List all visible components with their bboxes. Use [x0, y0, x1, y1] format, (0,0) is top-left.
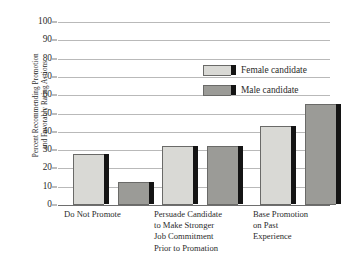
bar-shadow-face	[238, 146, 243, 204]
bar-female-group-2	[162, 146, 193, 205]
x-category-label-3-line-2: on Past	[253, 220, 308, 231]
y-tick-label-50: 50	[12, 109, 52, 118]
bar-chart-figure: Percent Recommending Promotion and Favor…	[0, 0, 346, 267]
chart-legend: Female candidate Male candidate	[203, 62, 346, 102]
bar-male-group-1	[118, 182, 149, 205]
y-tick-label-80: 80	[12, 54, 52, 63]
bar-shadow-face	[336, 104, 341, 204]
x-category-label-2-line-2: to Make Stronger	[154, 220, 222, 231]
bar-shadow-face	[104, 154, 109, 204]
bar-female-group-1	[73, 154, 104, 205]
y-tick-label-20: 20	[12, 164, 52, 173]
gridline-90	[58, 40, 330, 41]
y-tick-label-70: 70	[12, 72, 52, 81]
y-tick-label-10: 10	[12, 182, 52, 191]
x-category-label-2-line-3: Job Commitment	[154, 231, 222, 242]
bar-shadow-face	[291, 126, 296, 204]
y-tick-label-60: 60	[12, 91, 52, 100]
plot-area: 0102030405060708090100 Female candidate …	[58, 22, 330, 205]
y-tick-mark-50	[52, 113, 57, 114]
bar-shadow-face	[149, 182, 154, 204]
bar-shadow-face	[193, 146, 198, 204]
legend-swatch-female-icon	[203, 65, 231, 76]
x-category-label-1: Do Not Promote	[64, 209, 121, 220]
legend-item-male: Male candidate	[203, 82, 346, 98]
y-tick-mark-10	[52, 186, 57, 187]
legend-swatch-male-icon	[203, 85, 231, 96]
x-category-label-1-line-1: Do Not Promote	[64, 209, 121, 220]
y-tick-mark-30	[52, 150, 57, 151]
x-axis-category-labels: Do Not PromotePersuade Candidateto Make …	[58, 209, 330, 261]
y-tick-mark-0	[52, 205, 57, 206]
y-tick-label-90: 90	[12, 36, 52, 45]
gridline-0	[58, 205, 330, 206]
y-tick-mark-80	[52, 58, 57, 59]
y-tick-label-0: 0	[12, 200, 52, 209]
gridline-50	[58, 114, 330, 115]
y-tick-mark-20	[52, 168, 57, 169]
y-tick-mark-100	[52, 22, 57, 23]
y-tick-mark-60	[52, 95, 57, 96]
bar-male-group-3	[305, 104, 336, 205]
swatch-shadow-face	[231, 85, 236, 95]
x-category-label-2: Persuade Candidateto Make StrongerJob Co…	[154, 209, 222, 254]
legend-item-female: Female candidate	[203, 62, 346, 78]
x-category-label-2-line-4: Prior to Promation	[154, 243, 222, 254]
gridline-100	[58, 22, 330, 23]
x-category-label-3: Base Promotionon PastExperience	[253, 209, 308, 243]
y-tick-mark-70	[52, 76, 57, 77]
legend-label-male: Male candidate	[241, 85, 299, 95]
bar-female-group-3	[260, 126, 291, 205]
y-tick-mark-90	[52, 40, 57, 41]
gridline-80	[58, 59, 330, 60]
y-axis-title: Percent Recommending Promotion and Favor…	[0, 0, 40, 212]
legend-label-female: Female candidate	[241, 65, 307, 75]
x-category-label-3-line-3: Experience	[253, 231, 308, 242]
swatch-shadow-face	[231, 65, 236, 75]
x-category-label-3-line-1: Base Promotion	[253, 209, 308, 220]
y-tick-label-40: 40	[12, 127, 52, 136]
y-tick-label-100: 100	[12, 17, 52, 26]
bar-male-group-2	[207, 146, 238, 205]
y-tick-label-30: 30	[12, 145, 52, 154]
x-category-label-2-line-1: Persuade Candidate	[154, 209, 222, 220]
y-tick-mark-40	[52, 131, 57, 132]
